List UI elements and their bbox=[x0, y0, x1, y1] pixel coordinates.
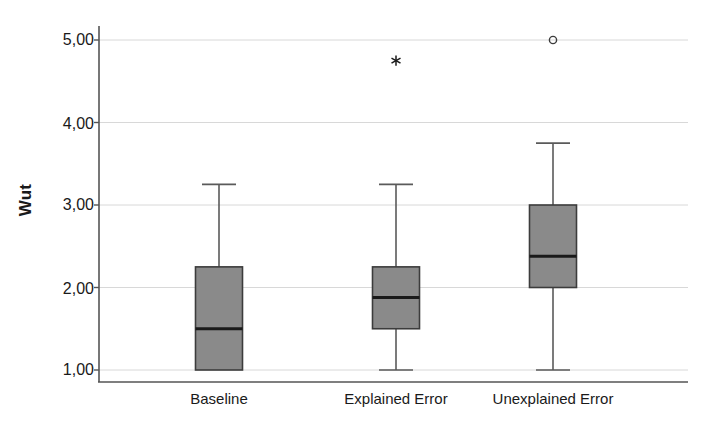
box-baseline bbox=[196, 184, 243, 370]
plot-area bbox=[0, 0, 722, 430]
box-explained-error bbox=[373, 55, 420, 370]
box-series bbox=[196, 36, 577, 370]
box-iqr bbox=[530, 205, 577, 288]
extreme-outlier-asterisk bbox=[391, 55, 400, 65]
boxplot-chart: Wut 5,00 4,00 3,00 2,00 1,00 Baseline Ex… bbox=[0, 0, 722, 430]
box-iqr bbox=[196, 267, 243, 370]
box-unexplained-error bbox=[530, 36, 577, 370]
